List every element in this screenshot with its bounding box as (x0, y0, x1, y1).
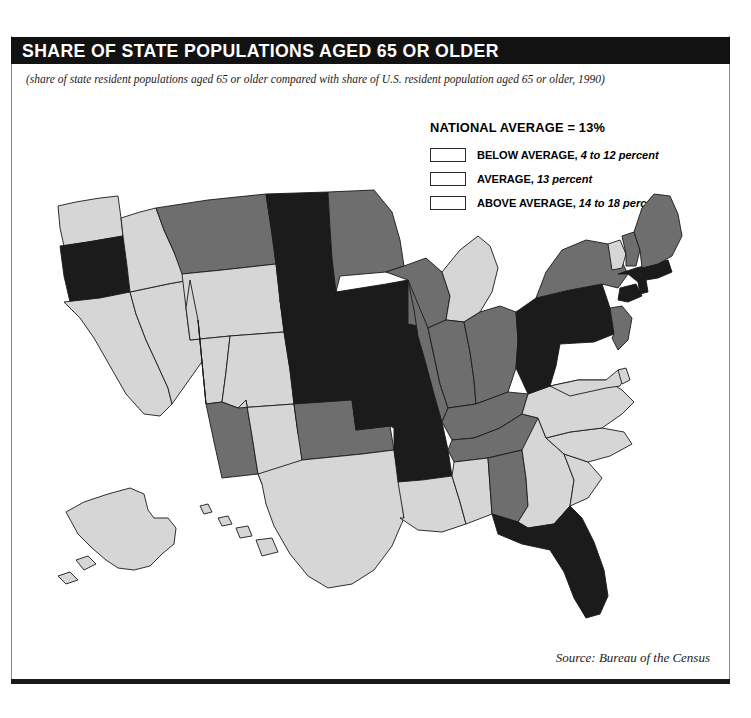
page-title: SHARE OF STATE POPULATIONS AGED 65 OR OL… (22, 40, 499, 61)
state-arkansas: Arkansas (394, 422, 452, 482)
state-north-dakota: North Dakota (266, 192, 332, 264)
legend-item-below: BELOW AVERAGE, 4 to 12 percent (430, 144, 660, 165)
state-new-jersey: New Jersey (610, 306, 632, 350)
chart-subtitle: (share of state resident populations age… (26, 73, 686, 85)
legend-item-average: AVERAGE, 13 percent (430, 168, 660, 189)
figure-container: SHARE OF STATE POPULATIONS AGED 65 OR OL… (0, 0, 751, 718)
state-minnesota: Minnesota (328, 190, 404, 292)
state-hawaii: Hawaii (200, 504, 278, 556)
state-oregon: Oregon (60, 236, 130, 302)
state-colorado: Colorado (222, 332, 294, 408)
state-iowa: Iowa (336, 280, 418, 340)
frame-rule-left (11, 36, 12, 681)
us-map-svg: WashingtonOregonCaliforniaNevadaIdahoMon… (22, 188, 722, 636)
legend-label-below: BELOW AVERAGE, 4 to 12 percent (477, 149, 659, 161)
state-maine: Maine (634, 194, 682, 268)
frame-rule-right (729, 36, 730, 681)
legend-swatch-below-icon (430, 148, 466, 162)
legend-title: NATIONAL AVERAGE = 13% (430, 120, 649, 135)
state-rhode-island: Rhode Island (638, 280, 648, 294)
title-bar: SHARE OF STATE POPULATIONS AGED 65 OR OL… (11, 37, 730, 64)
state-texas: Texas (258, 450, 404, 588)
legend-swatch-average-icon (430, 172, 466, 186)
state-south-dakota: South Dakota (276, 258, 338, 326)
frame-rule-bottom (11, 679, 730, 684)
legend-label-average: AVERAGE, 13 percent (477, 173, 592, 185)
state-alabama: Alabama (488, 450, 528, 522)
state-alaska: Alaska (58, 488, 176, 584)
source-attribution: Source: Bureau of the Census (380, 650, 710, 666)
choropleth-map: WashingtonOregonCaliforniaNevadaIdahoMon… (22, 188, 722, 636)
